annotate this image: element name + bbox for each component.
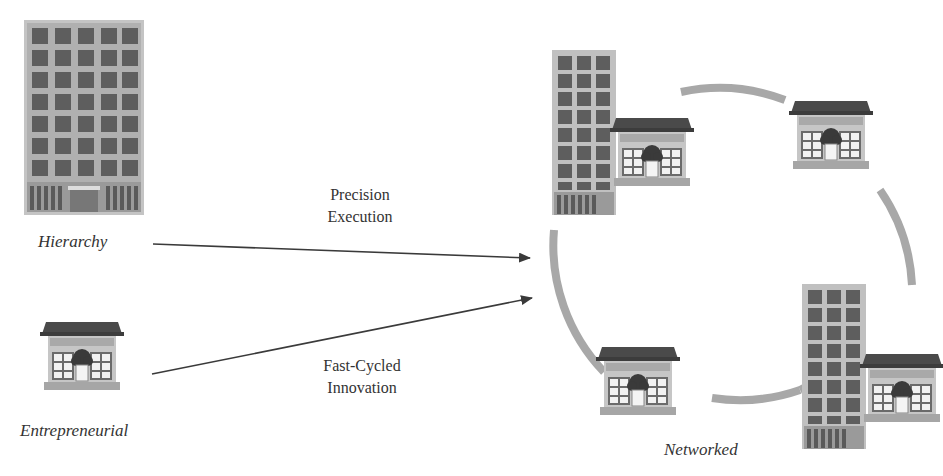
node-label-entrepreneurial: Entrepreneurial	[20, 421, 128, 441]
arrow-hierarchy-to-networked	[153, 244, 530, 258]
edge-label-fast-cycled-innovation: Fast-Cycled Innovation	[296, 355, 428, 399]
network-tower-with-shop-bottom-right-icon	[802, 284, 943, 449]
edge-label-precision-execution: Precision Execution	[300, 184, 420, 228]
network-tower-with-shop-top-left-icon	[552, 50, 694, 215]
edge-label-line2: Execution	[300, 206, 420, 228]
node-label-networked: Networked	[664, 440, 738, 460]
edge-label-line1: Fast-Cycled	[296, 355, 428, 377]
node-label-hierarchy: Hierarchy	[38, 232, 107, 252]
hierarchy-building-icon	[24, 20, 144, 215]
entrepreneurial-shop-icon	[40, 322, 124, 390]
edge-label-line1: Precision	[300, 184, 420, 206]
network-shop-bottom-left-icon	[596, 347, 680, 415]
edge-label-line2: Innovation	[296, 377, 428, 399]
network-shop-top-right-icon	[789, 101, 873, 169]
diagram-canvas	[0, 0, 943, 476]
